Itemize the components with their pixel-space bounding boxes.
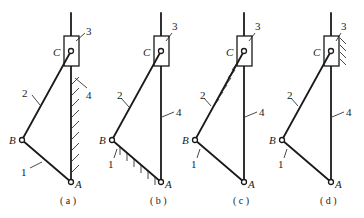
joint-c xyxy=(69,49,74,54)
figure-a: 3 4 2 1 C B A ( a ) xyxy=(9,13,92,207)
link-1 xyxy=(195,140,244,182)
figure-c: 3 4 2 1 C B A ( c ) xyxy=(182,13,265,207)
caption-d: ( d ) xyxy=(320,195,337,207)
label-4: 4 xyxy=(346,106,352,118)
label-2: 2 xyxy=(117,89,123,101)
label-3: 3 xyxy=(86,25,92,37)
joint-a xyxy=(329,180,334,185)
label-2: 2 xyxy=(287,89,293,101)
label-c: C xyxy=(313,46,321,58)
label-1: 1 xyxy=(191,158,197,170)
link-1 xyxy=(282,140,331,182)
label-2: 2 xyxy=(200,89,206,101)
joint-b xyxy=(20,138,25,143)
link-2 xyxy=(22,51,71,140)
joint-b xyxy=(193,138,198,143)
joint-a xyxy=(69,180,74,185)
joint-c xyxy=(159,49,164,54)
label-a: A xyxy=(334,178,342,190)
link-1 xyxy=(22,140,71,182)
label-a: A xyxy=(164,178,172,190)
link-1 xyxy=(112,140,161,182)
label-c: C xyxy=(226,46,234,58)
label-4: 4 xyxy=(259,106,265,118)
caption-c: ( c ) xyxy=(233,195,249,207)
label-b: B xyxy=(99,134,106,146)
label-3: 3 xyxy=(255,20,261,32)
joint-a xyxy=(242,180,247,185)
label-b: B xyxy=(269,134,276,146)
ground-hatch xyxy=(72,77,79,172)
label-3: 3 xyxy=(341,20,347,32)
mechanism-inversions-diagram: 3 4 2 1 C B A ( a ) 3 4 2 1 C B xyxy=(0,0,364,218)
caption-b: ( b ) xyxy=(150,195,167,207)
label-c: C xyxy=(53,46,61,58)
joint-b xyxy=(280,138,285,143)
label-3: 3 xyxy=(172,20,178,32)
figure-d: 3 4 2 1 C B A ( d ) xyxy=(269,13,352,207)
figure-b: 3 4 2 1 C B A ( b ) xyxy=(99,13,182,207)
label-c: C xyxy=(143,46,151,58)
caption-a: ( a ) xyxy=(60,195,76,207)
label-2: 2 xyxy=(22,87,28,99)
joint-a xyxy=(159,180,164,185)
label-a: A xyxy=(247,178,255,190)
joint-c xyxy=(242,49,247,54)
joint-c xyxy=(329,49,334,54)
label-1: 1 xyxy=(278,158,284,170)
label-1: 1 xyxy=(21,166,27,178)
label-b: B xyxy=(182,134,189,146)
ground-hatch xyxy=(340,38,346,65)
label-a: A xyxy=(74,178,82,190)
label-4: 4 xyxy=(86,89,92,101)
label-4: 4 xyxy=(176,106,182,118)
ground-hatch xyxy=(120,147,155,185)
joint-b xyxy=(110,138,115,143)
label-1: 1 xyxy=(108,158,114,170)
label-b: B xyxy=(9,134,16,146)
